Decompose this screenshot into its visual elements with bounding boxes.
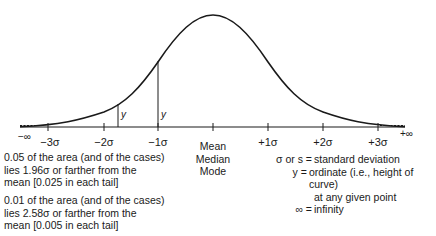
legend: σ or s =standard deviation y =ordinate (…	[238, 153, 436, 216]
legend-symbol: ∞ =	[238, 203, 314, 216]
legend-symbol	[238, 191, 314, 204]
mean-label: Mean	[196, 140, 230, 153]
center-label: Mean Median Mode	[196, 140, 230, 178]
note-95: 0.05 of the area (and of the cases) lies…	[4, 151, 165, 189]
tick-label: −2σ	[94, 136, 113, 148]
legend-symbol: σ or s =	[238, 153, 314, 166]
mode-label: Mode	[196, 165, 230, 178]
note-line: 0.01 of the area (and of the cases)	[4, 194, 165, 207]
legend-text: standard deviation	[314, 153, 400, 166]
tick-label: +2σ	[313, 136, 332, 148]
neg-infinity-label: −∞	[18, 131, 31, 142]
note-line: mean [0.005 in each tail]	[4, 219, 165, 232]
pos-infinity-label: +∞	[400, 128, 413, 139]
tick-label: +3σ	[368, 136, 387, 148]
ordinate-label: y	[161, 109, 166, 120]
legend-text: ordinate (i.e., height of curve)	[309, 166, 436, 191]
legend-text: at any given point	[314, 191, 396, 204]
tick-label: +1σ	[258, 136, 277, 148]
tick-label: −3σ	[40, 136, 59, 148]
tick-label: −1σ	[148, 136, 167, 148]
bell-curve	[20, 15, 405, 127]
note-line: 0.05 of the area (and of the cases)	[4, 151, 165, 164]
legend-text: infinity	[314, 203, 344, 216]
note-line: lies 1.96σ or farther from the	[4, 164, 165, 177]
note-line: mean [0.025 in each tail]	[4, 176, 165, 189]
median-label: Median	[196, 153, 230, 166]
ordinate-label: y	[121, 109, 126, 120]
note-line: lies 2.58σ or farther from the	[4, 207, 165, 220]
legend-symbol: y =	[238, 166, 309, 191]
note-99: 0.01 of the area (and of the cases) lies…	[4, 194, 165, 232]
